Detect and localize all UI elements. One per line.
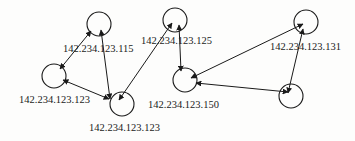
node-nX bbox=[279, 84, 303, 108]
node-n123a bbox=[42, 64, 66, 88]
edge-n125-n150 bbox=[179, 25, 181, 71]
node-n131 bbox=[294, 10, 318, 34]
network-diagram: 142.234.123.115142.234.123.123142.234.12… bbox=[0, 0, 355, 141]
node-n125 bbox=[163, 8, 187, 32]
network-graph-canvas: 142.234.123.115142.234.123.123142.234.12… bbox=[0, 0, 355, 141]
node-label-n123b: 142.234.123.123 bbox=[89, 122, 160, 133]
edge-n115-n123b bbox=[101, 30, 110, 99]
node-n150 bbox=[173, 68, 197, 92]
edge-n131-nX bbox=[288, 29, 303, 93]
node-label-n115: 142.234.123.115 bbox=[63, 43, 134, 54]
node-label-n123a: 142.234.123.123 bbox=[19, 94, 90, 105]
edge-n150-nX bbox=[196, 83, 288, 92]
node-label-n125: 142.234.123.125 bbox=[141, 35, 212, 46]
node-n115 bbox=[87, 12, 111, 36]
node-label-n131: 142.234.123.131 bbox=[270, 41, 341, 52]
node-label-n150: 142.234.123.150 bbox=[148, 99, 219, 110]
